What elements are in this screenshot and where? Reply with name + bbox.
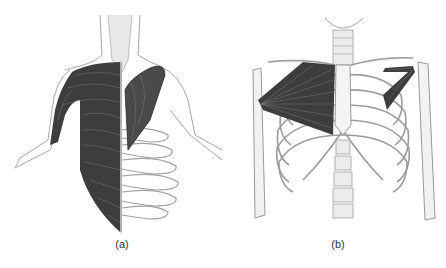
panel-a: (a) <box>0 0 223 268</box>
back-muscles-illustration <box>0 0 223 268</box>
panel-a-label: (a) <box>102 238 142 250</box>
anatomy-figure: (a) <box>0 0 446 268</box>
panel-b: (b) <box>223 0 446 268</box>
chest-skeleton-illustration <box>223 0 446 268</box>
panel-b-label: (b) <box>318 238 358 250</box>
